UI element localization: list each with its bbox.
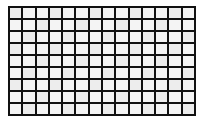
grid-cell	[76, 20, 87, 30]
grid-cell	[90, 68, 101, 78]
grid-cell	[37, 104, 48, 114]
grid-cell	[76, 92, 87, 102]
grid-cell	[156, 68, 167, 78]
grid-cell	[76, 8, 87, 18]
grid-cell	[130, 32, 141, 42]
grid-cell	[103, 8, 114, 18]
grid-cell	[116, 32, 127, 42]
grid-cell	[63, 32, 74, 42]
grid-cell	[103, 20, 114, 30]
grid-cell	[183, 32, 194, 42]
grid-cell	[50, 92, 61, 102]
grid-cell	[156, 80, 167, 90]
grid-cell	[116, 92, 127, 102]
grid-cell	[103, 68, 114, 78]
grid-cell	[10, 56, 21, 66]
grid-cell	[63, 80, 74, 90]
grid-cell	[10, 68, 21, 78]
grid-cell	[130, 8, 141, 18]
grid-cell	[37, 80, 48, 90]
grid-cell	[23, 20, 34, 30]
grid-cell	[76, 80, 87, 90]
grid-cell	[183, 8, 194, 18]
grid-cell	[10, 8, 21, 18]
diagram-canvas	[0, 0, 203, 122]
grid-cell	[183, 80, 194, 90]
grid-cell	[23, 80, 34, 90]
grid-cell	[169, 56, 180, 66]
grid-cell	[76, 56, 87, 66]
grid-cell	[130, 104, 141, 114]
grid-cell	[23, 44, 34, 54]
mesh-grid	[8, 6, 196, 116]
grid-cell	[156, 20, 167, 30]
grid-cell	[76, 68, 87, 78]
grid-cell	[50, 56, 61, 66]
grid-cell	[10, 20, 21, 30]
grid-cell	[143, 104, 154, 114]
grid-cell	[90, 92, 101, 102]
grid-cell	[37, 8, 48, 18]
grid-cell	[103, 104, 114, 114]
grid-cell	[183, 56, 194, 66]
grid-cell	[37, 68, 48, 78]
grid-cell	[116, 8, 127, 18]
grid-cell	[37, 44, 48, 54]
grid-cell	[156, 32, 167, 42]
grid-cell	[156, 92, 167, 102]
grid-cell	[116, 104, 127, 114]
grid-cell	[116, 20, 127, 30]
grid-cell	[50, 80, 61, 90]
grid-cell	[183, 104, 194, 114]
grid-cell	[116, 80, 127, 90]
grid-cell	[90, 56, 101, 66]
grid-cell	[143, 44, 154, 54]
grid-cell	[23, 56, 34, 66]
grid-cell	[169, 32, 180, 42]
grid-cell	[50, 44, 61, 54]
grid-cell	[183, 44, 194, 54]
grid-cell	[50, 104, 61, 114]
grid-cell	[90, 32, 101, 42]
grid-cell	[143, 56, 154, 66]
grid-cell	[156, 56, 167, 66]
grid-cell	[169, 92, 180, 102]
grid-cell	[103, 44, 114, 54]
grid-cell	[156, 44, 167, 54]
grid-cell	[103, 92, 114, 102]
grid-cell	[23, 8, 34, 18]
grid-cell	[169, 44, 180, 54]
grid-cell	[63, 92, 74, 102]
grid-cell	[169, 20, 180, 30]
grid-cell	[50, 68, 61, 78]
grid-cell	[23, 32, 34, 42]
grid-cell	[37, 20, 48, 30]
grid-cell	[130, 56, 141, 66]
grid-cell	[130, 44, 141, 54]
grid-cell	[143, 80, 154, 90]
grid-cell	[130, 92, 141, 102]
grid-cell	[10, 44, 21, 54]
grid-cell	[103, 56, 114, 66]
grid-cell	[116, 68, 127, 78]
grid-cell	[143, 32, 154, 42]
grid-cell	[10, 32, 21, 42]
grid-cell	[130, 80, 141, 90]
grid-cell	[143, 92, 154, 102]
grid-cell	[76, 104, 87, 114]
grid-cell	[63, 56, 74, 66]
grid-cell	[143, 8, 154, 18]
grid-cell	[90, 80, 101, 90]
grid-cell	[183, 92, 194, 102]
grid-cell	[90, 44, 101, 54]
grid-cell	[169, 80, 180, 90]
grid-cell	[63, 20, 74, 30]
grid-cell	[10, 104, 21, 114]
grid-cell	[130, 68, 141, 78]
grid-cell	[50, 20, 61, 30]
grid-cell	[116, 56, 127, 66]
grid-cell	[183, 68, 194, 78]
grid-cell	[63, 68, 74, 78]
grid-cell	[76, 32, 87, 42]
grid-cell	[37, 56, 48, 66]
